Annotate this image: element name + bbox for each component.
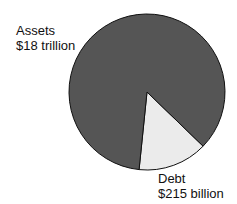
- slice-label-debt: Debt $215 billion: [158, 171, 224, 201]
- slice-label-assets-value: $18 trillion: [16, 38, 75, 53]
- pie-slices: [69, 14, 225, 170]
- slice-label-assets: Assets $18 trillion: [16, 23, 75, 53]
- slice-label-debt-value: $215 billion: [158, 186, 224, 201]
- slice-label-debt-name: Debt: [158, 171, 224, 186]
- slice-label-assets-name: Assets: [16, 23, 75, 38]
